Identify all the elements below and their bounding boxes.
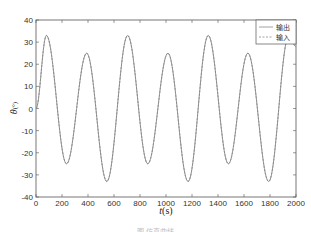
y-tick-label: 40 [24, 16, 33, 25]
x-tick-label: 400 [81, 199, 95, 208]
y-tick-label: 20 [24, 60, 33, 69]
x-tick-label: 600 [107, 199, 121, 208]
y-tick-label: -40 [21, 193, 33, 202]
x-tick-label: 2000 [287, 199, 305, 208]
x-tick-label: 800 [133, 199, 147, 208]
x-tick-label: 1800 [261, 199, 279, 208]
x-tick-label: 200 [55, 199, 69, 208]
y-tick-label: -10 [21, 127, 33, 136]
y-tick-label: -30 [21, 171, 33, 180]
legend-label-output: 输出 [276, 23, 290, 32]
y-tick-label: 10 [24, 82, 33, 91]
x-tick-label: 1600 [235, 199, 253, 208]
x-tick-label: 1400 [209, 199, 227, 208]
svg-text:θ(°): θ(°) [8, 101, 19, 114]
x-tick-label: 1200 [183, 199, 201, 208]
x-axis-label: t(s) [159, 205, 172, 217]
x-axis-unit: (s) [162, 205, 173, 217]
y-tick-label: -20 [21, 149, 33, 158]
y-tick-label: 30 [24, 38, 33, 47]
svg-text:t(s): t(s) [159, 205, 172, 217]
figure-caption: 图 仿真曲线 [0, 226, 311, 232]
x-tick-label: 0 [34, 199, 39, 208]
y-axis-label: θ(°) [8, 101, 19, 114]
y-tick-label: 0 [29, 105, 34, 114]
legend-label-input: 输入 [276, 33, 290, 42]
line-chart: -40-30-20-10010203040 020040060080010001… [0, 0, 311, 232]
y-axis-unit: (°) [11, 101, 19, 109]
legend: 输出 输入 [256, 20, 296, 44]
